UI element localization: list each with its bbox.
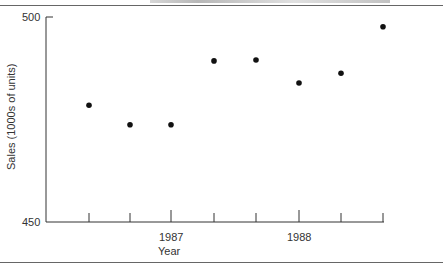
y-axis-title: Sales (1000s of units) (5, 64, 17, 170)
data-point (338, 70, 344, 76)
data-point (168, 122, 174, 128)
data-point (211, 58, 217, 64)
y-tick-500: 500 (22, 11, 40, 23)
x-axis-title: Year (158, 245, 181, 257)
data-point (296, 80, 302, 86)
y-tick-450: 450 (22, 216, 40, 228)
data-point (253, 57, 259, 63)
data-point (127, 122, 133, 128)
x-tick-1987: 1987 (159, 231, 183, 243)
data-point (86, 102, 92, 108)
x-tick-1988: 1988 (287, 231, 311, 243)
x-ticks (89, 210, 383, 222)
scatter-chart: 500 450 1987 1988 Year Sales (1000s of u… (0, 0, 443, 269)
data-points (86, 24, 386, 128)
bottom-rule (0, 262, 443, 263)
data-point (380, 24, 386, 30)
